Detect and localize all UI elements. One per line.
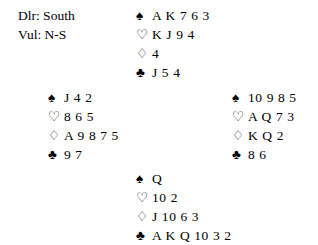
- east-clubs-cards: 8 6: [248, 145, 267, 164]
- diamond-icon: ♢: [136, 44, 149, 63]
- club-icon: ♣: [136, 63, 149, 82]
- heart-icon: ♡: [48, 107, 61, 126]
- north-diamonds-row: ♢4: [136, 44, 210, 63]
- east-spades-cards: 10 9 8 5: [248, 88, 297, 107]
- club-icon: ♣: [232, 145, 245, 164]
- diamond-icon: ♢: [48, 126, 61, 145]
- south-spades-cards: Q: [152, 169, 162, 188]
- north-clubs-cards: J 5 4: [152, 63, 181, 82]
- north-hearts-row: ♡K J 9 4: [136, 25, 210, 44]
- hand-south: ♠Q ♡10 2 ♢J 10 6 3 ♣A K Q 10 3 2: [136, 169, 232, 245]
- east-spades-row: ♠10 9 8 5: [232, 88, 297, 107]
- south-hearts-row: ♡10 2: [136, 188, 232, 207]
- south-spades-row: ♠Q: [136, 169, 232, 188]
- heart-icon: ♡: [136, 25, 149, 44]
- north-diamonds-cards: 4: [152, 44, 159, 63]
- west-hearts-row: ♡8 6 5: [48, 107, 119, 126]
- west-spades-row: ♠J 4 2: [48, 88, 119, 107]
- diamond-icon: ♢: [136, 207, 149, 226]
- dealer-label: Dlr: South: [18, 6, 75, 25]
- west-spades-cards: J 4 2: [64, 88, 93, 107]
- spade-icon: ♠: [48, 88, 61, 107]
- spade-icon: ♠: [232, 88, 245, 107]
- east-diamonds-row: ♢K Q 2: [232, 126, 297, 145]
- spade-icon: ♠: [136, 169, 149, 188]
- north-spades-row: ♠A K 7 6 3: [136, 6, 210, 25]
- deal-info-block: Dlr: South Vul: N-S: [18, 6, 75, 44]
- west-diamonds-cards: A 9 8 7 5: [64, 126, 119, 145]
- heart-icon: ♡: [232, 107, 245, 126]
- west-hearts-cards: 8 6 5: [64, 107, 94, 126]
- heart-icon: ♡: [136, 188, 149, 207]
- north-clubs-row: ♣J 5 4: [136, 63, 210, 82]
- hand-east: ♠10 9 8 5 ♡A Q 7 3 ♢K Q 2 ♣8 6: [232, 88, 297, 164]
- vulnerability-label: Vul: N-S: [18, 25, 75, 44]
- hand-west: ♠J 4 2 ♡8 6 5 ♢A 9 8 7 5 ♣9 7: [48, 88, 119, 164]
- north-spades-cards: A K 7 6 3: [152, 6, 210, 25]
- east-diamonds-cards: K Q 2: [248, 126, 284, 145]
- south-clubs-cards: A K Q 10 3 2: [152, 226, 232, 245]
- south-hearts-cards: 10 2: [152, 188, 178, 207]
- west-diamonds-row: ♢A 9 8 7 5: [48, 126, 119, 145]
- spade-icon: ♠: [136, 6, 149, 25]
- west-clubs-cards: 9 7: [64, 145, 83, 164]
- club-icon: ♣: [48, 145, 61, 164]
- east-hearts-row: ♡A Q 7 3: [232, 107, 297, 126]
- club-icon: ♣: [136, 226, 149, 245]
- hand-north: ♠A K 7 6 3 ♡K J 9 4 ♢4 ♣J 5 4: [136, 6, 210, 82]
- diamond-icon: ♢: [232, 126, 245, 145]
- south-diamonds-cards: J 10 6 3: [152, 207, 199, 226]
- south-diamonds-row: ♢J 10 6 3: [136, 207, 232, 226]
- south-clubs-row: ♣A K Q 10 3 2: [136, 226, 232, 245]
- bridge-deal-diagram: Dlr: South Vul: N-S ♠A K 7 6 3 ♡K J 9 4 …: [0, 0, 318, 245]
- east-clubs-row: ♣8 6: [232, 145, 297, 164]
- east-hearts-cards: A Q 7 3: [248, 107, 295, 126]
- north-hearts-cards: K J 9 4: [152, 25, 195, 44]
- west-clubs-row: ♣9 7: [48, 145, 119, 164]
